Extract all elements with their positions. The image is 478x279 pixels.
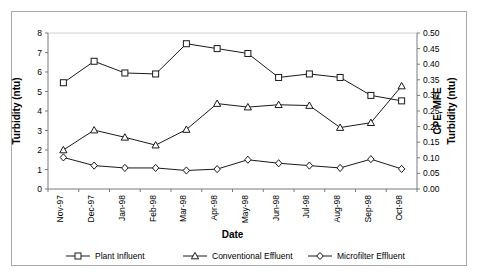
- legend-marker-diamond: [317, 252, 323, 259]
- legend-label-triangle: Conventional Effluent: [212, 251, 293, 261]
- x-axis-title: Date: [222, 229, 244, 240]
- data-point-diamond: [398, 165, 404, 172]
- x-axis-tick-label: Jan-98: [117, 195, 127, 221]
- right-axis-tick-label: 0.35: [423, 75, 440, 85]
- x-axis-tick-label: Sep-98: [363, 195, 373, 223]
- left-axis-tick-label: 6: [37, 67, 42, 77]
- left-axis-tick-label: 7: [37, 48, 42, 58]
- data-point-square: [122, 70, 128, 76]
- turbidity-line-chart: 012345678Turbidity (ntu)0.000.050.100.15…: [0, 0, 478, 279]
- data-point-triangle: [60, 146, 67, 152]
- data-point-diamond: [152, 164, 158, 171]
- x-axis-tick-label: Mar-98: [178, 195, 188, 222]
- data-point-square: [60, 80, 66, 86]
- data-point-square: [276, 74, 282, 80]
- right-axis-title-line1: CPE, MFE: [432, 87, 443, 135]
- x-axis-tick-label: Nov-97: [55, 195, 65, 223]
- left-axis-tick-label: 1: [37, 165, 42, 175]
- series-line-triangle: [63, 86, 401, 150]
- data-point-square: [183, 41, 189, 47]
- right-axis-tick-label: 0.15: [423, 137, 440, 147]
- right-axis-tick-label: 0.40: [423, 59, 440, 69]
- x-axis-tick-label: Apr-98: [209, 195, 219, 221]
- data-point-square: [306, 71, 312, 77]
- data-point-triangle: [214, 100, 221, 106]
- right-axis-tick-label: 0.10: [423, 153, 440, 163]
- data-point-diamond: [214, 166, 220, 173]
- data-point-diamond: [183, 167, 189, 174]
- data-point-diamond: [122, 164, 128, 171]
- data-point-diamond: [306, 162, 312, 169]
- data-point-square: [368, 92, 374, 98]
- data-point-triangle: [91, 127, 98, 133]
- data-point-diamond: [275, 160, 281, 167]
- x-axis-tick-label: May-98: [240, 195, 250, 224]
- data-point-diamond: [245, 156, 251, 163]
- data-point-square: [153, 71, 159, 77]
- data-point-square: [214, 46, 220, 52]
- right-axis-tick-label: 0.50: [423, 28, 440, 38]
- left-axis-title: Turbidity (ntu): [11, 77, 22, 144]
- legend-label-diamond: Microfilter Effluent: [337, 251, 406, 261]
- data-point-square: [91, 58, 97, 64]
- x-axis-tick-label: Jul-98: [301, 195, 311, 218]
- x-axis-tick-label: Feb-98: [148, 195, 158, 222]
- legend-label-square: Plant Influent: [95, 251, 145, 261]
- data-point-square: [399, 98, 405, 104]
- right-axis-tick-label: 0.45: [423, 44, 440, 54]
- left-axis-tick-label: 0: [37, 184, 42, 194]
- data-point-square: [245, 50, 251, 56]
- right-axis-tick-label: 0.00: [423, 184, 440, 194]
- left-axis-tick-label: 8: [37, 28, 42, 38]
- data-point-diamond: [337, 164, 343, 171]
- data-point-diamond: [91, 162, 97, 169]
- series-line-square: [63, 44, 401, 101]
- right-axis-tick-label: 0.05: [423, 168, 440, 178]
- data-point-square: [337, 74, 343, 80]
- chart-container: 012345678Turbidity (ntu)0.000.050.100.15…: [0, 0, 478, 279]
- right-axis-title-line2: Turbidity (ntu): [446, 77, 457, 144]
- left-axis-tick-label: 4: [37, 106, 42, 116]
- data-point-triangle: [398, 82, 405, 88]
- left-axis-tick-label: 2: [37, 145, 42, 155]
- data-point-diamond: [60, 154, 66, 161]
- data-point-diamond: [368, 156, 374, 163]
- x-axis-tick-label: Aug-98: [332, 195, 342, 223]
- x-axis-tick-label: Oct-98: [394, 195, 404, 221]
- left-axis-tick-label: 5: [37, 87, 42, 97]
- series-line-diamond: [63, 157, 401, 170]
- legend-marker-square: [75, 253, 81, 259]
- left-axis-tick-label: 3: [37, 126, 42, 136]
- x-axis-tick-label: Jun-98: [271, 195, 281, 221]
- x-axis-tick-label: Dec-97: [86, 195, 96, 223]
